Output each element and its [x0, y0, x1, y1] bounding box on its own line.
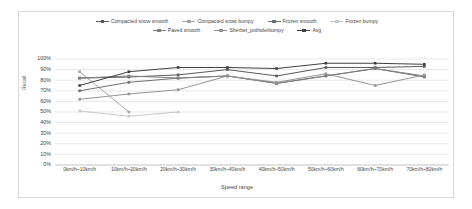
series-marker — [423, 74, 426, 77]
series-marker — [128, 75, 131, 78]
screenshot-root: Compacted snow smoothCompacted snow bump… — [0, 0, 472, 209]
y-tick-label: 0% — [27, 162, 51, 167]
y-tick-label: 40% — [27, 120, 51, 125]
y-tick-label: 60% — [27, 99, 51, 104]
y-tick-label: 50% — [27, 109, 51, 114]
series-marker — [128, 93, 131, 96]
series-marker — [177, 111, 180, 114]
series-marker — [128, 70, 131, 73]
series-marker — [325, 66, 328, 69]
series-marker — [78, 98, 81, 101]
y-tick-label: 90% — [27, 67, 51, 72]
x-tick-label: 60km/h~70km/h — [351, 166, 400, 180]
x-tick-label: 10km/h~20km/h — [104, 166, 153, 180]
series-marker — [275, 81, 278, 84]
series-marker — [78, 77, 81, 80]
y-tick-label: 100% — [27, 56, 51, 61]
y-tick-label: 20% — [27, 141, 51, 146]
series-marker — [128, 111, 131, 114]
x-tick-label: 30km/h~40km/h — [203, 166, 252, 180]
series-marker — [325, 62, 328, 65]
series-line-5 — [80, 74, 425, 99]
series-marker — [177, 77, 180, 80]
series-marker — [78, 90, 81, 93]
y-tick-label: 80% — [27, 78, 51, 83]
x-tick-label: 50km/h~60km/h — [301, 166, 350, 180]
x-axis-title: Speed range — [19, 184, 455, 190]
series-marker — [128, 81, 131, 84]
series-marker — [226, 66, 229, 69]
series-marker — [374, 84, 377, 87]
series-marker — [177, 88, 180, 91]
series-marker — [78, 84, 81, 87]
series-marker — [423, 63, 426, 66]
x-tick-label: 40km/h~50km/h — [252, 166, 301, 180]
plot-area: Recall 100%90%80%70%60%50%40%30%20%10%0%… — [19, 12, 455, 199]
series-marker — [374, 62, 377, 65]
series-marker — [177, 66, 180, 69]
y-axis-tick-labels: 100%90%80%70%60%50%40%30%20%10%0% — [25, 12, 51, 199]
series-marker — [275, 75, 278, 78]
series-line-4 — [80, 69, 425, 84]
series-marker — [226, 75, 229, 78]
series-marker — [275, 67, 278, 70]
y-tick-label: 30% — [27, 131, 51, 136]
series-marker — [128, 115, 131, 118]
y-tick-label: 70% — [27, 88, 51, 93]
x-tick-label: 20km/h~30km/h — [154, 166, 203, 180]
series-marker — [374, 67, 377, 70]
series-marker — [78, 110, 81, 113]
series-marker — [325, 73, 328, 76]
x-axis-tick-labels: 0km/h~10km/h10km/h~20km/h20km/h~30km/h30… — [55, 166, 449, 180]
x-tick-label: 0km/h~10km/h — [55, 166, 104, 180]
series-marker — [177, 74, 180, 77]
series-marker — [78, 70, 81, 73]
chart-container: Compacted snow smoothCompacted snow bump… — [18, 11, 454, 198]
x-tick-label: 70km/h~80km/h — [400, 166, 449, 180]
y-tick-label: 10% — [27, 152, 51, 157]
